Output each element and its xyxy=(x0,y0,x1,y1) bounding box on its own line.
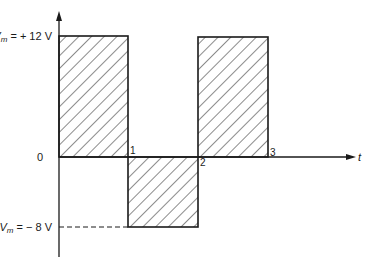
x-axis-label: t xyxy=(358,151,362,163)
tick-label-2: 2 xyxy=(200,157,206,168)
negative-level-label: −Vm = − 8 V xyxy=(0,221,53,235)
negative-pulse xyxy=(128,157,198,227)
positive-pulse-1 xyxy=(59,36,128,157)
square-wave-diagram: Vm = + 12 V 0 −Vm = − 8 V 1 2 3 t xyxy=(0,0,368,266)
positive-pulse-2 xyxy=(198,37,268,157)
y-axis-arrow-icon xyxy=(56,11,62,21)
origin-label: 0 xyxy=(37,151,43,163)
positive-level-label: Vm = + 12 V xyxy=(0,30,53,44)
x-axis-arrow-icon xyxy=(346,154,356,160)
tick-label-1: 1 xyxy=(130,145,136,156)
tick-label-3: 3 xyxy=(270,147,276,158)
